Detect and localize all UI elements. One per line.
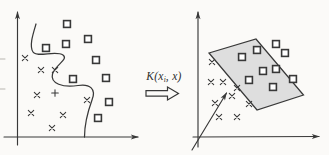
cross-marker: [28, 110, 33, 115]
feature-vector-arrowhead-icon: [221, 91, 229, 100]
cross-marker: [38, 67, 43, 72]
input-space-crosses: [22, 55, 89, 130]
figure-canvas: K(xi, x): [0, 0, 329, 155]
kernel-label-pre: K(x: [146, 70, 164, 82]
cross-marker: [209, 59, 214, 64]
square-marker: [273, 41, 280, 48]
input-space-squares: [43, 21, 113, 122]
cross-marker: [52, 67, 57, 72]
cross-marker: [208, 79, 213, 84]
kernel-function-label: K(xi, x): [138, 69, 190, 87]
square-marker: [64, 21, 71, 28]
cross-marker: [229, 93, 234, 98]
square-marker: [260, 68, 267, 75]
square-marker: [239, 54, 246, 61]
cross-marker: [220, 79, 225, 84]
feature-space-plot: [192, 11, 320, 150]
kernel-label-post: , x): [166, 70, 182, 82]
input-space-edge-marks: [0, 59, 5, 89]
cross-marker: [84, 97, 89, 102]
cross-marker: [216, 114, 221, 119]
kernel-arrow-group: [146, 87, 179, 100]
cross-marker: [22, 55, 27, 60]
cross-marker: [60, 112, 65, 117]
feature-x-axis-line: [193, 137, 319, 138]
square-marker: [85, 36, 92, 43]
hollow-right-arrow-icon: [146, 87, 179, 100]
plus-marker: [52, 90, 59, 97]
square-marker: [254, 47, 261, 54]
cross-marker: [234, 114, 239, 119]
square-marker: [103, 75, 110, 82]
square-marker: [63, 41, 70, 48]
square-marker: [70, 76, 77, 83]
square-marker: [43, 45, 50, 52]
square-marker: [106, 99, 113, 106]
cross-marker: [49, 125, 54, 130]
square-marker: [290, 76, 297, 83]
square-marker: [282, 50, 289, 57]
cross-marker: [246, 101, 251, 106]
square-marker: [270, 84, 277, 91]
square-marker: [273, 66, 280, 73]
square-marker: [95, 115, 102, 122]
input-space-plot: [0, 11, 139, 145]
cross-marker: [34, 92, 39, 97]
square-marker: [93, 57, 100, 64]
cross-marker: [212, 100, 217, 105]
square-marker: [246, 77, 253, 84]
feature-vector-line: [192, 93, 227, 150]
